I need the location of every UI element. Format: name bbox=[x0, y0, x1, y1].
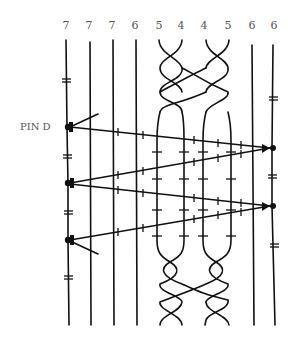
pin-icon bbox=[65, 178, 74, 188]
braid-middle bbox=[157, 112, 231, 262]
column-label: 6 bbox=[128, 19, 142, 32]
right-straight-threads bbox=[252, 45, 275, 325]
column-label: 5 bbox=[152, 19, 166, 32]
thread-diagram: 7 7 7 6 5 4 4 5 6 6 PIN D bbox=[0, 0, 297, 344]
column-label: 7 bbox=[59, 19, 73, 32]
column-label: 7 bbox=[82, 19, 96, 32]
pin-icon bbox=[262, 202, 276, 211]
braid-top bbox=[159, 40, 229, 112]
weaver-passes bbox=[70, 114, 270, 254]
column-label: 6 bbox=[245, 19, 259, 32]
pin-icon bbox=[65, 235, 74, 245]
diagram-drawing bbox=[0, 0, 297, 344]
column-label: 7 bbox=[105, 19, 119, 32]
braid-bottom bbox=[160, 262, 229, 325]
column-label: 4 bbox=[197, 19, 211, 32]
column-label: 6 bbox=[267, 19, 281, 32]
pin-d-label: PIN D bbox=[20, 121, 51, 132]
pins bbox=[65, 122, 276, 245]
column-label: 4 bbox=[174, 19, 188, 32]
pin-icon bbox=[65, 122, 73, 132]
column-label: 5 bbox=[221, 19, 235, 32]
pin-icon bbox=[262, 144, 276, 153]
